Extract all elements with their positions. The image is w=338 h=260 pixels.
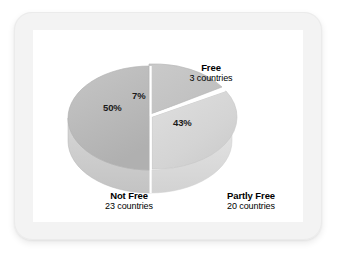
callout-label-free: Free 3 countries <box>151 62 271 84</box>
data-label-partly-free-percent: 43% <box>173 117 192 128</box>
pie-chart-plot-area: 50% 7% 43% Free 3 countries Not Free 23 … <box>33 30 303 222</box>
chart-card: 50% 7% 43% Free 3 countries Not Free 23 … <box>14 12 322 240</box>
callout-label-partly-free: Partly Free 20 countries <box>191 190 311 212</box>
callout-partly-free-count: 20 countries <box>191 201 311 212</box>
chart-panel: 50% 7% 43% Free 3 countries Not Free 23 … <box>33 30 303 222</box>
callout-partly-free-category: Partly Free <box>191 190 311 201</box>
callout-not-free-category: Not Free <box>69 190 189 201</box>
callout-free-category: Free <box>151 62 271 73</box>
callout-free-count: 3 countries <box>151 73 271 84</box>
data-label-free-percent: 7% <box>132 90 146 101</box>
data-label-not-free-percent: 50% <box>103 102 122 113</box>
callout-not-free-count: 23 countries <box>69 201 189 212</box>
callout-label-not-free: Not Free 23 countries <box>69 190 189 212</box>
